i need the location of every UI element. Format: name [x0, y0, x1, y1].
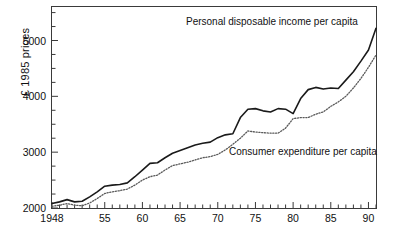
- x-tick-label: 55: [85, 212, 125, 224]
- y-tick-label: 5000: [12, 35, 46, 47]
- x-tick-label: 80: [273, 212, 313, 224]
- annotation-expenditure-label: Consumer expenditure per capita: [229, 146, 377, 157]
- y-tick-label: 4000: [12, 90, 46, 102]
- x-tick-label: 65: [160, 212, 200, 224]
- annotation-income-label: Personal disposable income per capita: [186, 16, 358, 27]
- page-caption-cutoff: [0, 232, 394, 243]
- x-tick-label: 90: [348, 212, 388, 224]
- x-tick-label: 1948: [32, 212, 72, 224]
- y-tick-label: 3000: [12, 146, 46, 158]
- x-tick-label: 70: [198, 212, 238, 224]
- chart-figure: £ 1985 prices 2000300040005000 194855606…: [0, 0, 394, 243]
- plot-frame: [52, 7, 377, 209]
- x-tick-label: 60: [122, 212, 162, 224]
- x-tick-label: 75: [235, 212, 275, 224]
- x-tick-label: 85: [311, 212, 351, 224]
- line-chart-plot: [0, 0, 394, 243]
